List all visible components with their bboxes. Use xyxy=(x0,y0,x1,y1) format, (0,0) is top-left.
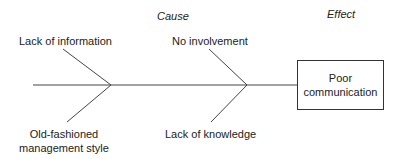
cause-old-fashioned-line1: Old-fashioned xyxy=(19,127,109,141)
bone-lack-of-information xyxy=(63,49,111,85)
cause-lack-of-information: Lack of information xyxy=(19,34,112,48)
bone-lack-of-knowledge xyxy=(211,85,247,122)
cause-no-involvement: No involvement xyxy=(172,34,248,48)
effect-line2: communication xyxy=(304,85,378,99)
cause-header: Cause xyxy=(157,9,189,23)
bone-no-involvement xyxy=(209,49,247,85)
cause-old-fashioned-management: Old-fashioned management style xyxy=(19,127,109,155)
cause-lack-of-knowledge: Lack of knowledge xyxy=(165,127,256,141)
effect-line1: Poor xyxy=(304,71,378,85)
bone-old-fashioned xyxy=(67,85,111,122)
effect-box: Poor communication xyxy=(297,60,384,110)
cause-old-fashioned-line2: management style xyxy=(19,141,109,155)
effect-header: Effect xyxy=(327,7,355,21)
